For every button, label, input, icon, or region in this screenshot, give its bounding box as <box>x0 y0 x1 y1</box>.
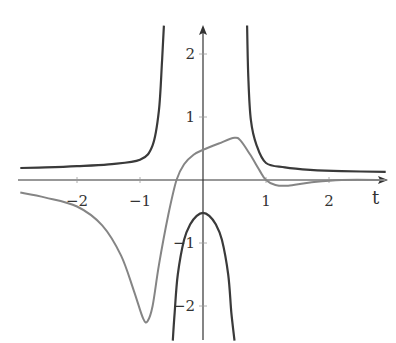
y-tick-label: −2 <box>173 297 195 315</box>
y-tick-label: −1 <box>173 234 195 252</box>
dark-curve-branch <box>247 26 386 172</box>
x-tick-label: −2 <box>66 192 88 210</box>
function-plot: −2−11221−1−2 t <box>0 0 396 343</box>
axes <box>18 25 388 340</box>
dark-curve-branch <box>20 26 164 168</box>
t-axis-label: t <box>372 187 380 208</box>
dark-curve-branch <box>173 213 235 341</box>
x-tick-label: 2 <box>324 192 334 210</box>
x-tick-label: −1 <box>129 192 151 210</box>
x-tick-label: 1 <box>261 192 271 210</box>
y-tick-label: 1 <box>185 108 195 126</box>
y-tick-label: 2 <box>185 45 195 63</box>
